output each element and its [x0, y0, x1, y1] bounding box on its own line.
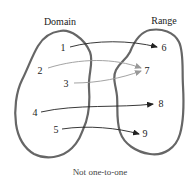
domain-point-5: 5 [54, 124, 59, 135]
range-point-9: 9 [143, 128, 148, 139]
domain-set-outline [15, 31, 91, 158]
arrow-3-to-7 [74, 71, 141, 83]
domain-point-1: 1 [61, 42, 66, 53]
range-set-outline [114, 30, 183, 155]
arrow-2-to-7 [48, 61, 141, 69]
diagram-caption: Not one-to-one [73, 167, 128, 177]
domain-point-3: 3 [64, 78, 69, 89]
domain-label: Domain [44, 16, 76, 27]
range-point-8: 8 [159, 98, 164, 109]
range-label: Range [151, 15, 177, 26]
domain-point-2: 2 [38, 65, 43, 76]
range-point-7: 7 [145, 65, 150, 76]
domain-point-4: 4 [33, 107, 38, 118]
range-point-6: 6 [162, 42, 167, 53]
arrow-5-to-9 [62, 127, 139, 134]
function-mapping-diagram: Domain Range 1 2 3 4 5 6 7 8 9 Not one-t… [0, 0, 196, 184]
arrow-4-to-8 [41, 104, 153, 112]
